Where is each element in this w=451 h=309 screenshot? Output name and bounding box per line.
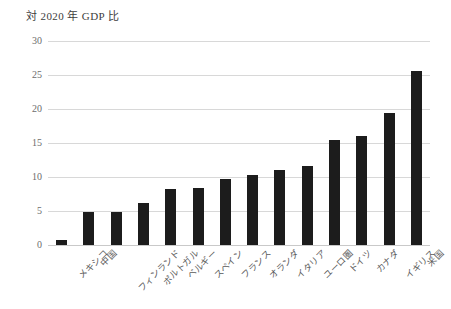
bar	[111, 212, 122, 245]
x-tick-label: オランダ	[268, 249, 300, 281]
gridline-0	[48, 245, 430, 246]
gridline-30	[48, 41, 430, 42]
bar	[274, 170, 285, 245]
y-tick-label: 25	[2, 70, 42, 80]
bar-chart: 対 2020 年 GDP 比 051015202530 メキシコ中国フィンランド…	[0, 0, 451, 309]
plot-area	[48, 41, 430, 245]
x-tick-label: カナダ	[375, 249, 400, 274]
gridline-20	[48, 109, 430, 110]
x-tick-label: イタリア	[295, 249, 327, 281]
y-axis-tick-labels: 051015202530	[0, 41, 42, 245]
bar	[138, 203, 149, 245]
y-tick-label: 20	[2, 104, 42, 114]
bar	[302, 166, 313, 245]
bar	[56, 240, 67, 245]
bar	[247, 175, 258, 245]
bar	[220, 179, 231, 245]
x-tick-label: フランス	[241, 249, 273, 281]
gridline-25	[48, 75, 430, 76]
gridline-5	[48, 211, 430, 212]
y-tick-label: 5	[2, 206, 42, 216]
bar	[83, 212, 94, 245]
gridline-15	[48, 143, 430, 144]
y-tick-label: 10	[2, 172, 42, 182]
bar	[329, 140, 340, 245]
bar	[165, 189, 176, 245]
bar	[384, 113, 395, 245]
bar	[356, 136, 367, 245]
x-axis-tick-labels: メキシコ中国フィンランドポルトガルベルギースペインフランスオランダイタリアユーロ…	[0, 249, 451, 309]
x-tick-label: スペイン	[213, 249, 244, 280]
bar	[411, 71, 422, 245]
bar	[193, 188, 204, 245]
y-tick-label: 15	[2, 138, 42, 148]
y-tick-label: 30	[2, 36, 42, 46]
chart-title: 対 2020 年 GDP 比	[26, 7, 119, 23]
gridline-10	[48, 177, 430, 178]
